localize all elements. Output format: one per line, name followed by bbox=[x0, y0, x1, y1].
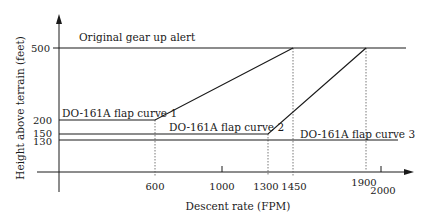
x-tick-label-2000: 2000 bbox=[370, 185, 395, 196]
y-tick-label-200: 200 bbox=[33, 115, 52, 126]
flap-curve-3-label: DO-161A flap curve 3 bbox=[300, 128, 415, 140]
x-tick-label-1300: 1300 bbox=[253, 181, 278, 192]
x-tick-label-1450: 1450 bbox=[281, 181, 306, 192]
flap-curve-2-label: DO-161A flap curve 2 bbox=[169, 121, 284, 133]
flap-curve-1-label: DO-161A flap curve 1 bbox=[62, 107, 177, 119]
x-axis-arrow-icon bbox=[404, 169, 414, 175]
y-axis-title: Height above terrain (feet) bbox=[14, 36, 26, 179]
gear-alert-label: Original gear up alert bbox=[79, 31, 196, 43]
y-axis-arrow-icon bbox=[56, 14, 62, 24]
x-axis-title: Descent rate (FPM) bbox=[186, 200, 291, 212]
x-tick-label-1000: 1000 bbox=[209, 181, 234, 192]
y-tick-label-130: 130 bbox=[33, 136, 52, 147]
x-tick-label-600: 600 bbox=[145, 181, 164, 192]
y-tick-label-500: 500 bbox=[31, 43, 50, 54]
chart: Original gear up alert DO-161A flap curv… bbox=[0, 0, 423, 221]
